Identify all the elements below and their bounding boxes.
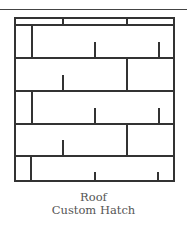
caption-subtitle: Custom Hatch [0, 204, 187, 217]
